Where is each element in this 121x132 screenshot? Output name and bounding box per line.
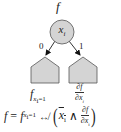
edge-label-1: 1 — [79, 41, 84, 51]
edge-0 — [46, 41, 55, 55]
derivative-den-index: i — [83, 99, 84, 104]
cofactor-sub-eq: =1 — [38, 95, 45, 103]
negated-var-index: i — [64, 116, 66, 124]
formula-open-paren: ( — [53, 106, 58, 126]
formula-frac-den: ∂xi — [81, 116, 90, 127]
left-subtree — [31, 57, 59, 83]
formula-and-operator: ∧ — [69, 109, 78, 124]
formula-close-paren: ) — [91, 106, 96, 126]
derivative-fraction: ∂f ∂xi — [75, 83, 84, 104]
node-index: i — [63, 30, 65, 38]
right-subtree-label: ∂f ∂xi — [75, 83, 84, 104]
derivative-denominator: ∂xi — [75, 93, 84, 104]
derivative-numerator: ∂f — [75, 83, 83, 93]
formula-lhs: f — [4, 109, 7, 124]
formula-frac-den-index: i — [88, 122, 89, 127]
right-subtree — [69, 57, 97, 83]
formula-cofactor-sub-eq: =1 — [29, 111, 36, 119]
edge-label-0: 0 — [39, 41, 44, 51]
root-function-label: f — [56, 0, 60, 15]
left-subtree-label: fxi=1 — [30, 87, 46, 106]
formula-equals: = — [10, 109, 17, 124]
formula-derivative-fraction: ∂f ∂xi — [81, 106, 90, 127]
derivative-den-var: ∂x — [75, 93, 83, 102]
formula-negated-var: xi — [59, 108, 66, 124]
decomposition-formula: f = fxi=1 ↮ ( xi ∧ ∂f ∂xi ) — [4, 106, 96, 127]
formula-frac-num: ∂f — [81, 106, 89, 116]
node-variable-label: xi — [55, 23, 69, 38]
formula-xor-operator: ↮ — [39, 111, 49, 122]
